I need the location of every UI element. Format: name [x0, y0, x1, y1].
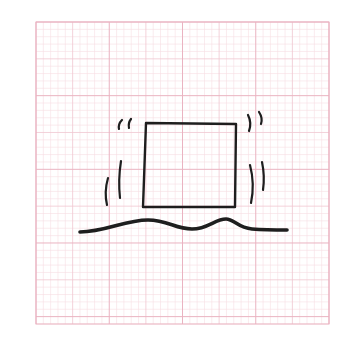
- background: [0, 0, 351, 340]
- graph-paper-grid: [36, 22, 329, 324]
- graph-paper-diagram: Hand-drawn square box shaking/vibrating …: [0, 0, 351, 340]
